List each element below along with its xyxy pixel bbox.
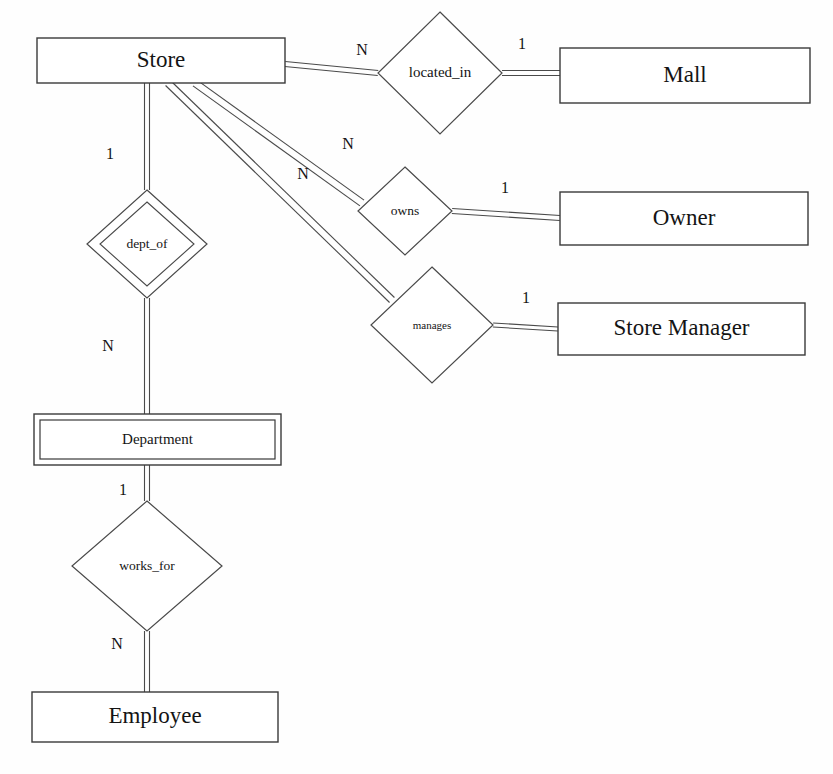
connector-store-to-dept_of <box>145 83 150 190</box>
er-diagram-canvas: located_inownsmanagesdept_ofworks_for St… <box>0 0 833 774</box>
cardinality-label-dept_of-department: N <box>102 337 114 354</box>
entity-label: Store <box>137 47 186 72</box>
cardinality-label-department-works_for: 1 <box>119 481 127 498</box>
relationship-label: owns <box>391 203 420 218</box>
relationship-label: works_for <box>119 558 175 573</box>
cardinality-label-manages-store_manager: 1 <box>522 289 530 306</box>
relationship-owns[interactable]: owns <box>358 167 452 255</box>
relationship-label: manages <box>413 319 451 331</box>
connector-works_for-to-employee <box>145 631 150 692</box>
cardinality-label-store-owns: N <box>342 135 354 152</box>
connector-layer <box>145 62 561 692</box>
entity-label: Employee <box>108 703 201 728</box>
relationship-located_in[interactable]: located_in <box>378 12 502 134</box>
cardinality-label-works_for-employee: N <box>111 635 123 652</box>
relationship-label: dept_of <box>126 236 168 251</box>
entity-mall[interactable]: Mall <box>560 48 810 103</box>
cardinality-label-located_in-mall: 1 <box>518 35 526 52</box>
entity-employee[interactable]: Employee <box>32 692 278 742</box>
er-diagram-svg: located_inownsmanagesdept_ofworks_for St… <box>0 0 833 774</box>
entity-label: Owner <box>653 205 716 230</box>
connector-line <box>285 62 378 71</box>
cardinality-label-store-dept_of: 1 <box>106 145 114 162</box>
cardinality-label-store-manages: N <box>297 165 309 182</box>
entity-store_manager[interactable]: Store Manager <box>558 303 805 355</box>
entity-owner[interactable]: Owner <box>560 192 808 245</box>
connector-store-to-manages <box>166 80 395 302</box>
relationship-manages[interactable]: manages <box>371 267 493 383</box>
cardinality-label-store-located_in: N <box>356 41 368 58</box>
connector-line <box>493 327 558 331</box>
connector-line <box>285 66 378 75</box>
connector-owns-to-owner <box>452 209 560 221</box>
connector-line <box>493 323 558 327</box>
connector-manages-to-store_manager <box>493 323 558 331</box>
entity-label: Store Manager <box>613 315 749 340</box>
connector-dept_of-to-department <box>145 298 150 414</box>
connector-line <box>193 86 360 206</box>
relationship-dept_of[interactable]: dept_of <box>87 190 207 298</box>
connector-store-to-owns <box>193 80 364 206</box>
entity-department[interactable]: Department <box>34 414 281 465</box>
connector-line <box>170 80 394 297</box>
entity-store[interactable]: Store <box>37 38 285 83</box>
relationship-label: located_in <box>409 64 472 80</box>
relationship-layer: located_inownsmanagesdept_ofworks_for <box>72 12 502 631</box>
connector-located_in-to-mall <box>502 71 560 76</box>
entity-layer: StoreMallOwnerStore ManagerDepartmentEmp… <box>32 38 810 742</box>
connector-department-to-works_for <box>145 465 150 501</box>
relationship-works_for[interactable]: works_for <box>72 501 222 631</box>
connector-store-to-located_in <box>285 62 378 76</box>
entity-label: Department <box>122 431 194 447</box>
cardinality-label-owns-owner: 1 <box>501 179 509 196</box>
entity-label: Mall <box>663 62 706 87</box>
